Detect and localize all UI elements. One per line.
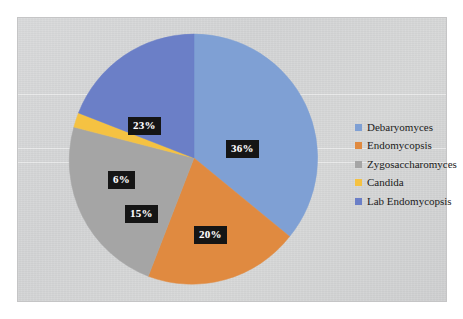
data-label-endomycopsis: 20%: [194, 226, 227, 244]
legend-item-debaryomyces[interactable]: Debaryomyces: [355, 118, 463, 137]
legend-label: Zygosaccharomyces: [367, 159, 457, 170]
data-label-zygosaccharomyces: 15%: [125, 205, 158, 223]
legend-label: Debaryomyces: [367, 122, 433, 133]
pie-plot-area: 36% 20% 15% 6% 23%: [52, 30, 342, 292]
legend-swatch-icon: [355, 142, 362, 149]
legend-item-zygosaccharomyces[interactable]: Zygosaccharomyces: [355, 155, 463, 174]
legend-item-lab-endomycopsis[interactable]: Lab Endomycopsis: [355, 192, 463, 211]
data-label-lab-endomycopsis: 23%: [128, 117, 161, 135]
legend-item-endomycopsis[interactable]: Endomycopsis: [355, 137, 463, 156]
chart-panel: 36% 20% 15% 6% 23% Debaryomyces Endomyco…: [18, 18, 446, 301]
data-label-candida: 6%: [108, 171, 135, 189]
legend-swatch-icon: [355, 124, 362, 131]
legend-swatch-icon: [355, 161, 362, 168]
data-label-debaryomyces: 36%: [226, 140, 259, 158]
legend-label: Lab Endomycopsis: [367, 196, 452, 207]
legend-item-candida[interactable]: Candida: [355, 174, 463, 193]
pie-chart: [52, 30, 342, 292]
legend-swatch-icon: [355, 198, 362, 205]
screenshot-root: 36% 20% 15% 6% 23% Debaryomyces Endomyco…: [0, 0, 463, 319]
chart-legend: Debaryomyces Endomycopsis Zygosaccharomy…: [355, 118, 463, 211]
legend-label: Endomycopsis: [367, 140, 432, 151]
legend-swatch-icon: [355, 179, 362, 186]
legend-label: Candida: [367, 177, 404, 188]
